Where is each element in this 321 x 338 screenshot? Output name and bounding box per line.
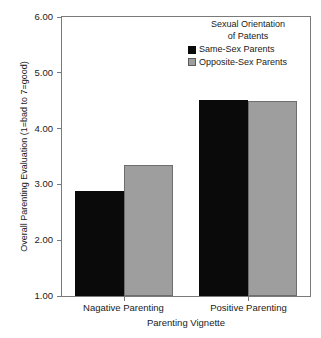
legend-title: Sexual Orientation of Patents bbox=[188, 19, 308, 42]
y-tick-label: 2.00 bbox=[35, 233, 54, 246]
x-tick-left bbox=[124, 296, 125, 301]
bar-nagative-opposite-sex bbox=[124, 165, 173, 296]
y-tick-label: 1.00 bbox=[35, 289, 54, 302]
legend-title-line2: of Patents bbox=[188, 31, 308, 43]
legend-label-same-sex: Same-Sex Parents bbox=[199, 44, 275, 56]
y-tick-mark bbox=[57, 17, 62, 18]
legend-swatch-opposite-sex-icon bbox=[188, 58, 196, 66]
y-tick-label: 4.00 bbox=[35, 122, 54, 135]
legend: Sexual Orientation of Patents Same-Sex P… bbox=[188, 19, 308, 68]
x-tick-right bbox=[248, 296, 249, 301]
x-group-label-nagative: Nagative Parenting bbox=[61, 302, 186, 314]
y-tick-label: 5.00 bbox=[35, 66, 54, 79]
y-tick-label: 6.00 bbox=[35, 10, 54, 23]
legend-item-same-sex: Same-Sex Parents bbox=[188, 44, 308, 56]
y-tick-mark bbox=[57, 184, 62, 185]
x-axis-title: Parenting Vignette bbox=[61, 317, 311, 329]
x-group-label-positive: Positive Parenting bbox=[186, 302, 311, 314]
bar-positive-same-sex bbox=[199, 100, 248, 296]
legend-swatch-same-sex-icon bbox=[188, 46, 196, 54]
y-tick-mark bbox=[57, 296, 62, 297]
legend-title-line1: Sexual Orientation bbox=[188, 19, 308, 31]
bar-nagative-same-sex bbox=[75, 191, 124, 296]
y-tick-label: 3.00 bbox=[35, 177, 54, 190]
legend-label-opposite-sex: Opposite-Sex Parents bbox=[199, 57, 287, 69]
y-axis-title: Overall Parenting Evaluation (1=bad to 7… bbox=[16, 16, 32, 297]
bar-positive-opposite-sex bbox=[248, 101, 297, 296]
legend-item-opposite-sex: Opposite-Sex Parents bbox=[188, 57, 308, 69]
y-tick-mark bbox=[57, 128, 62, 129]
y-tick-mark bbox=[57, 72, 62, 73]
y-tick-mark bbox=[57, 240, 62, 241]
bar-chart-figure: Overall Parenting Evaluation (1=bad to 7… bbox=[0, 0, 321, 338]
